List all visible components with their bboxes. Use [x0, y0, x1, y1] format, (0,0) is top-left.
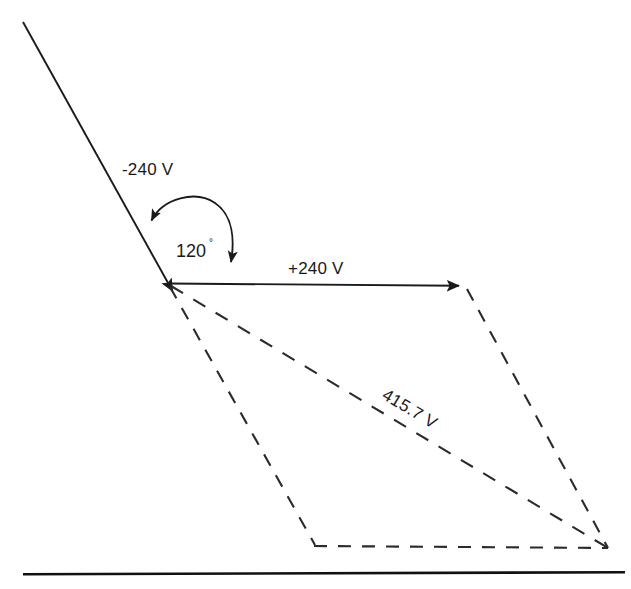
- label-negative-240v: -240 V: [122, 160, 174, 179]
- parallelogram-construction: [170, 287, 608, 548]
- baseline-rule-line: [23, 572, 625, 574]
- parallelogram-left-side: [170, 287, 315, 545]
- vector-negative-240v-line: [23, 22, 173, 291]
- label-angle-value: 120: [176, 241, 206, 261]
- phasor-diagram-canvas: -240 V +240 V 120 ° 415.7 V: [0, 0, 631, 589]
- label-positive-240v: +240 V: [288, 259, 344, 278]
- vector-positive-240v-line: [169, 284, 459, 286]
- degree-symbol-icon: °: [209, 237, 213, 248]
- vector-resultant-line: [171, 286, 608, 548]
- parallelogram-bottom-side: [314, 546, 608, 548]
- vector-negative-240v: [23, 22, 173, 291]
- baseline-rule: [23, 572, 625, 574]
- vector-resultant-415v: [171, 286, 608, 548]
- vector-positive-240v: [169, 284, 459, 286]
- parallelogram-right-side: [467, 289, 608, 548]
- phasor-diagram-svg: -240 V +240 V 120 ° 415.7 V: [0, 0, 631, 589]
- label-resultant-415v: 415.7 V: [379, 385, 441, 433]
